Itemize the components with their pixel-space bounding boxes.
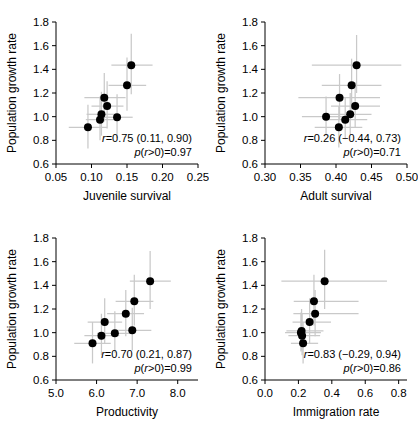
annotation-correlation: r=0.26 (−0.44, 0.73) — [304, 132, 401, 144]
y-tick-label: 1.6 — [242, 256, 258, 268]
data-point — [336, 94, 344, 102]
y-tick-label: 1.0 — [33, 327, 49, 339]
scatter-panel-immigration-rate: 0.60.81.01.21.41.61.80.00.20.40.60.8r=0.… — [209, 216, 418, 432]
y-axis-title: Population growth rate — [214, 33, 228, 153]
data-point — [299, 339, 307, 347]
scatter-panel-adult-survival: 0.60.81.01.21.41.61.80.300.350.400.450.5… — [209, 0, 418, 216]
data-point — [346, 110, 354, 118]
figure-panel-grid: 0.60.81.01.21.41.61.80.050.100.150.200.2… — [0, 0, 418, 432]
y-tick-label: 1.6 — [33, 256, 49, 268]
y-tick-label: 1.4 — [242, 279, 259, 291]
scatter-plot-0: 0.60.81.01.21.41.61.80.050.100.150.200.2… — [0, 0, 209, 216]
y-axis-title: Population growth rate — [5, 33, 19, 153]
y-tick-label: 1.2 — [33, 87, 49, 99]
x-axis-title: Adult survival — [300, 189, 371, 203]
x-tick-label: 0.25 — [187, 171, 209, 183]
data-point — [122, 310, 130, 318]
x-tick-label: 6.0 — [89, 387, 105, 399]
annotation-pvalue: p(r>0)=0.86 — [342, 362, 401, 374]
y-tick-label: 1.8 — [33, 16, 49, 28]
x-tick-label: 0.10 — [80, 171, 102, 183]
x-tick-label: 7.0 — [129, 387, 145, 399]
scatter-panel-juvenile-survival: 0.60.81.01.21.41.61.80.050.100.150.200.2… — [0, 0, 209, 216]
x-axis-title: Juvenile survival — [83, 189, 171, 203]
y-tick-label: 1.2 — [242, 303, 258, 315]
x-tick-label: 0.50 — [396, 171, 418, 183]
x-tick-label: 0.4 — [324, 387, 341, 399]
y-tick-label: 0.6 — [33, 374, 49, 386]
y-tick-label: 0.8 — [242, 350, 258, 362]
annotation-pvalue: p(r>0)=0.97 — [133, 146, 192, 158]
data-point — [322, 113, 330, 121]
data-point — [321, 277, 329, 285]
x-tick-label: 0.6 — [357, 387, 373, 399]
y-axis-title: Population growth rate — [5, 249, 19, 369]
y-tick-label: 1.4 — [33, 279, 50, 291]
y-tick-label: 1.6 — [33, 40, 49, 52]
y-tick-label: 1.8 — [33, 232, 49, 244]
data-point — [311, 310, 319, 318]
y-tick-label: 0.8 — [242, 134, 258, 146]
scatter-plot-3: 0.60.81.01.21.41.61.80.00.20.40.60.8r=0.… — [209, 216, 418, 432]
data-point — [89, 339, 97, 347]
y-tick-label: 0.6 — [242, 158, 258, 170]
annotation-correlation: r=0.75 (0.11, 0.90) — [102, 132, 192, 144]
scatter-plot-1: 0.60.81.01.21.41.61.80.300.350.400.450.5… — [209, 0, 418, 216]
x-axis-title: Productivity — [96, 405, 158, 419]
x-tick-label: 0.45 — [360, 171, 382, 183]
y-tick-label: 1.4 — [242, 63, 259, 75]
y-tick-label: 1.8 — [242, 16, 258, 28]
data-point — [97, 332, 105, 340]
data-point — [335, 123, 343, 131]
data-point — [123, 81, 131, 89]
data-point — [100, 94, 108, 102]
annotation-pvalue: p(r>0)=0.71 — [342, 146, 401, 158]
annotation-pvalue: p(r>0)=0.99 — [133, 362, 192, 374]
x-tick-label: 5.0 — [48, 387, 64, 399]
x-tick-label: 0.40 — [325, 171, 347, 183]
data-point — [111, 329, 119, 337]
y-tick-label: 1.2 — [33, 303, 49, 315]
x-tick-label: 0.0 — [257, 387, 273, 399]
y-tick-label: 1.0 — [242, 111, 258, 123]
data-point — [351, 102, 359, 110]
y-tick-label: 0.6 — [33, 158, 49, 170]
data-point — [146, 277, 154, 285]
x-tick-label: 0.30 — [254, 171, 276, 183]
x-tick-label: 0.20 — [151, 171, 173, 183]
y-tick-label: 1.0 — [242, 327, 258, 339]
x-tick-label: 0.05 — [45, 171, 67, 183]
data-point — [353, 61, 361, 69]
y-tick-label: 0.6 — [242, 374, 258, 386]
x-tick-label: 0.15 — [116, 171, 138, 183]
scatter-plot-2: 0.60.81.01.21.41.61.85.06.07.08.0r=0.70 … — [0, 216, 209, 432]
data-point — [127, 61, 135, 69]
x-tick-label: 0.35 — [289, 171, 311, 183]
y-tick-label: 1.0 — [33, 111, 49, 123]
scatter-panel-productivity: 0.60.81.01.21.41.61.85.06.07.08.0r=0.70 … — [0, 216, 209, 432]
y-tick-label: 1.2 — [242, 87, 258, 99]
y-tick-label: 1.8 — [242, 232, 258, 244]
annotation-correlation: r=0.83 (−0.29, 0.94) — [304, 348, 401, 360]
data-point — [128, 326, 136, 334]
data-point — [97, 110, 105, 118]
data-point — [101, 318, 109, 326]
y-tick-label: 1.6 — [242, 40, 258, 52]
y-tick-label: 1.4 — [33, 63, 50, 75]
data-point — [306, 318, 314, 326]
y-tick-label: 0.8 — [33, 350, 49, 362]
x-tick-label: 8.0 — [170, 387, 186, 399]
data-point — [298, 327, 306, 335]
data-point — [84, 123, 92, 131]
annotation-correlation: r=0.70 (0.21, 0.87) — [101, 348, 192, 360]
data-point — [310, 297, 318, 305]
data-point — [130, 297, 138, 305]
x-tick-label: 0.2 — [290, 387, 306, 399]
x-tick-label: 0.8 — [391, 387, 407, 399]
data-point — [113, 113, 121, 121]
y-tick-label: 0.8 — [33, 134, 49, 146]
data-point — [103, 102, 111, 110]
data-point — [348, 81, 356, 89]
x-axis-title: Immigration rate — [293, 405, 380, 419]
y-axis-title: Population growth rate — [214, 249, 228, 369]
